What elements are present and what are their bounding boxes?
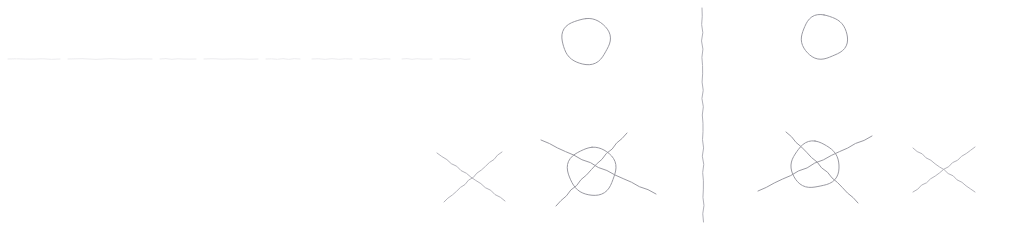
left-cross-stroke-b [444, 152, 502, 202]
right-circled-cross-stroke-b [786, 132, 858, 203]
faint-rule-segment-0 [8, 59, 60, 60]
right-symbol-group [758, 15, 975, 203]
left-cross-stroke-a [437, 153, 505, 201]
right-circled-cross-stroke-a [758, 136, 872, 191]
left-symbol-group [437, 18, 656, 206]
divider-line [702, 8, 704, 222]
faint-rule-segment-3 [204, 59, 258, 60]
faint-rule-segment-8 [440, 59, 470, 60]
right-circle-circle-stroke [801, 15, 847, 60]
right-cross-stroke-a [913, 148, 975, 192]
sketch-canvas: Hand-drawn sketch: mirrored circle and c… [0, 0, 1010, 230]
faint-rule-segment-7 [402, 59, 432, 60]
faint-rule-segment-6 [360, 59, 390, 60]
faint-rule-segment-1 [68, 59, 152, 60]
vertical-divider [702, 8, 704, 222]
faint-rule-segment-2 [160, 59, 196, 60]
faint-rule-segment-4 [266, 59, 300, 60]
faint-horizontal-rule [8, 59, 470, 60]
left-circle-circle-stroke [562, 18, 611, 64]
right-circled-cross-circle-stroke [791, 141, 839, 187]
sketch-drawing-surface [0, 0, 1010, 230]
faint-rule-segment-5 [312, 59, 352, 60]
